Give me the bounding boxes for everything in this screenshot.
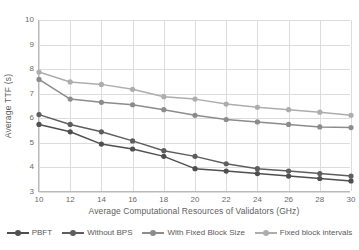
data-point	[99, 100, 104, 105]
legend-marker-icon	[7, 228, 29, 237]
y-axis-tick-label: 3	[30, 188, 34, 196]
data-point	[286, 169, 291, 174]
data-point	[130, 102, 135, 107]
legend-marker-icon	[62, 228, 84, 237]
gridline-vertical	[351, 20, 352, 191]
y-axis-tick-label: 9	[30, 41, 34, 49]
data-point	[317, 176, 322, 181]
data-point	[286, 107, 291, 112]
y-axis-tick-label: 5	[30, 139, 34, 147]
legend-item-4[interactable]: Fixed block intervals	[255, 228, 352, 237]
data-point	[68, 122, 73, 127]
data-point	[99, 82, 104, 87]
data-point	[161, 154, 166, 159]
data-point	[317, 171, 322, 176]
legend-item-1[interactable]: PBFT	[7, 228, 52, 237]
x-axis-title: Average Computational Resources of Valid…	[38, 206, 350, 216]
chart-container: Average TTF (s) 345678910 10121416182022…	[0, 0, 359, 250]
data-point	[348, 113, 353, 118]
data-point	[161, 94, 166, 99]
legend-marker-icon	[255, 228, 277, 237]
data-point	[224, 101, 229, 106]
series-4	[36, 69, 353, 117]
series-layer	[39, 20, 351, 192]
data-point	[192, 113, 197, 118]
data-point	[99, 141, 104, 146]
legend-marker-icon	[142, 228, 164, 237]
chart-legend: PBFTWithout BPSWith Fixed Block SizeFixe…	[0, 228, 359, 237]
data-point	[224, 117, 229, 122]
data-point	[224, 161, 229, 166]
y-axis-tick-label: 7	[30, 90, 34, 98]
data-point	[130, 138, 135, 143]
legend-label: Fixed block intervals	[280, 228, 352, 237]
data-point	[255, 105, 260, 110]
gridline-horizontal	[39, 192, 350, 193]
data-point	[68, 129, 73, 134]
data-point	[68, 79, 73, 84]
data-point	[317, 110, 322, 115]
data-point	[130, 146, 135, 151]
data-point	[161, 148, 166, 153]
x-axis-tick-label: 22	[222, 196, 231, 204]
legend-label: With Fixed Block Size	[167, 228, 244, 237]
y-axis-tick-label: 8	[30, 65, 34, 73]
legend-label: PBFT	[32, 228, 52, 237]
data-point	[286, 122, 291, 127]
legend-label: Without BPS	[87, 228, 132, 237]
data-point	[36, 112, 41, 117]
data-point	[255, 119, 260, 124]
x-axis-tick-label: 26	[284, 196, 293, 204]
data-point	[68, 97, 73, 102]
data-point	[255, 166, 260, 171]
data-point	[36, 122, 41, 127]
series-1	[36, 122, 353, 184]
data-point	[286, 173, 291, 178]
x-axis-tick-label: 12	[66, 196, 75, 204]
data-point	[192, 154, 197, 159]
x-axis-tick-label: 16	[128, 196, 137, 204]
data-point	[99, 129, 104, 134]
data-point	[224, 169, 229, 174]
y-axis-tick-label: 6	[30, 114, 34, 122]
legend-item-3[interactable]: With Fixed Block Size	[142, 228, 244, 237]
data-point	[348, 178, 353, 183]
data-point	[192, 97, 197, 102]
y-axis-title: Average TTF (s)	[2, 20, 14, 192]
y-axis-tick-label: 4	[30, 163, 34, 171]
data-point	[348, 173, 353, 178]
data-point	[130, 87, 135, 92]
y-axis-title-text: Average TTF (s)	[3, 74, 13, 139]
x-axis-tick-label: 28	[315, 196, 324, 204]
x-axis-tick-label: 30	[347, 196, 356, 204]
plot-area: 345678910 1012141618202224262830	[38, 20, 350, 192]
data-point	[348, 125, 353, 130]
data-point	[192, 166, 197, 171]
x-axis-tick-label: 14	[97, 196, 106, 204]
legend-item-2[interactable]: Without BPS	[62, 228, 132, 237]
x-axis-tick-label: 10	[35, 196, 44, 204]
x-axis-tick-label: 20	[191, 196, 200, 204]
series-line	[39, 79, 351, 127]
data-point	[317, 124, 322, 129]
series-line	[39, 72, 351, 115]
data-point	[36, 69, 41, 74]
series-3	[36, 77, 353, 130]
data-point	[161, 107, 166, 112]
data-point	[255, 171, 260, 176]
x-axis-tick-label: 18	[159, 196, 168, 204]
x-axis-tick-label: 24	[253, 196, 262, 204]
y-axis-tick-label: 10	[25, 16, 34, 24]
data-point	[36, 77, 41, 82]
